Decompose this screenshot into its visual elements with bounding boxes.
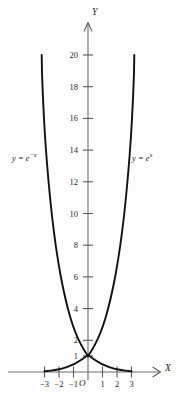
x-tick-label-1: 1 [100,380,104,389]
origin-label: O [79,379,86,388]
x-axis-label: X [165,364,171,374]
x-tick-label-3: 3 [129,380,133,389]
x-tick-label-minus3: −3 [40,380,49,389]
left-curve-label-exponent: −x [30,151,37,158]
right-curve-label: y = ex [132,154,152,163]
y-tick-label-18: 18 [60,82,78,91]
plot-canvas [0,0,180,397]
exponential-graph-figure: 20 18 16 14 12 10 8 6 4 2 1 −3 −2 −1 1 2… [0,0,180,397]
x-tick-label-minus1: −1 [69,380,78,389]
y-tick-label-4: 4 [60,304,78,313]
y-tick-label-12: 12 [60,178,78,187]
y-axis [84,23,92,381]
y-tick-label-16: 16 [60,114,78,123]
right-curve-label-exponent: x [150,151,153,158]
y-tick-label-1: 1 [60,352,78,361]
x-axis [8,367,161,377]
left-curve-label: y = e−x [12,154,37,163]
y-tick-label-8: 8 [60,241,78,250]
y-tick-label-6: 6 [60,273,78,282]
y-tick-label-2: 2 [60,336,78,345]
x-tick-label-2: 2 [115,380,119,389]
y-tick-label-20: 20 [60,51,78,60]
y-tick-label-14: 14 [60,146,78,155]
y-tick-label-10: 10 [60,209,78,218]
left-curve-label-base: y = e [12,153,30,163]
x-tick-label-minus2: −2 [54,380,63,389]
right-curve-label-base: y = e [132,153,150,163]
y-axis-label: Y [92,8,97,18]
